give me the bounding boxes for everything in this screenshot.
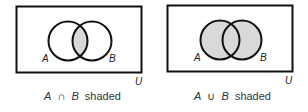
caption-operator: ∩	[57, 90, 65, 102]
set-b-label: B	[109, 53, 116, 64]
caption-operator: ∪	[207, 90, 215, 102]
venn-diagrams: A B U A ∩ B shaded A B U A ∪ B shaded	[0, 0, 308, 112]
caption-suffix: shaded	[235, 90, 271, 102]
caption-set-a: A	[43, 90, 51, 102]
caption-suffix: shaded	[85, 90, 121, 102]
caption-intersection: A ∩ B shaded	[43, 90, 121, 102]
caption-union: A ∪ B shaded	[193, 90, 271, 102]
universe-label: U	[285, 75, 293, 86]
caption-set-a: A	[193, 90, 201, 102]
caption-set-b: B	[221, 90, 228, 102]
venn-panel-union: A B U A ∪ B shaded	[168, 6, 294, 103]
venn-panel-intersection: A B U A ∩ B shaded	[17, 7, 144, 103]
set-a-label: A	[193, 52, 201, 63]
set-b-label: B	[260, 52, 267, 63]
caption-set-b: B	[71, 90, 78, 102]
set-a-label: A	[41, 53, 49, 64]
universe-label: U	[135, 76, 143, 87]
